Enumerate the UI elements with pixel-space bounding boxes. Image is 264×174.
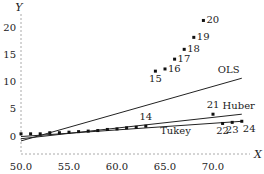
data-point xyxy=(135,126,138,129)
data-point xyxy=(77,130,80,133)
data-point xyxy=(116,127,119,130)
y-tick-label: 20 xyxy=(3,22,16,33)
data-point xyxy=(212,113,215,116)
robust-regression-chart: YX50.055.060.065.070.005101520 141516171… xyxy=(0,0,264,174)
data-point xyxy=(87,130,90,133)
data-point xyxy=(164,67,167,70)
data-point xyxy=(96,129,99,132)
x-tick-label: 50.0 xyxy=(10,161,32,172)
y-tick-label: 0 xyxy=(10,131,16,142)
point-label: 24 xyxy=(243,123,256,134)
axes: YX50.055.060.065.070.005101520 xyxy=(3,1,263,172)
line-label-tukey: Tukey xyxy=(160,125,191,136)
y-tick-label: 10 xyxy=(3,76,16,87)
regression-line-huber xyxy=(21,114,242,139)
data-point xyxy=(183,48,186,51)
point-label: 14 xyxy=(139,111,152,122)
point-label: 21 xyxy=(207,99,220,110)
data-point xyxy=(58,131,61,134)
labels: 1415161718192021222324OLSHuberTukey xyxy=(139,14,255,136)
point-label: 18 xyxy=(187,43,200,54)
data-point xyxy=(125,126,128,129)
x-tick-label: 55.0 xyxy=(58,161,80,172)
x-tick-label: 60.0 xyxy=(106,161,128,172)
y-axis-title: Y xyxy=(15,1,24,14)
line-label-huber: Huber xyxy=(223,100,255,111)
data-point xyxy=(173,58,176,61)
x-axis-title: X xyxy=(253,148,263,161)
line-label-ols: OLS xyxy=(218,64,240,75)
data-point xyxy=(106,128,109,131)
data-point xyxy=(20,132,23,135)
point-label: 17 xyxy=(178,53,191,64)
x-tick-label: 70.0 xyxy=(202,161,224,172)
data-point xyxy=(192,36,195,39)
point-label: 16 xyxy=(168,63,181,74)
data-point xyxy=(48,131,51,134)
y-tick-label: 15 xyxy=(3,49,16,60)
point-label: 20 xyxy=(206,14,219,25)
data-point xyxy=(144,125,147,128)
data-point xyxy=(202,19,205,22)
x-tick-label: 65.0 xyxy=(154,161,176,172)
data-point xyxy=(68,131,71,134)
point-label: 15 xyxy=(149,73,162,84)
data-point xyxy=(29,132,32,135)
point-label: 23 xyxy=(226,124,239,135)
y-tick-label: 5 xyxy=(10,103,16,114)
point-label: 19 xyxy=(197,31,210,42)
data-point xyxy=(39,132,42,135)
regression-line-tukey xyxy=(21,121,242,136)
